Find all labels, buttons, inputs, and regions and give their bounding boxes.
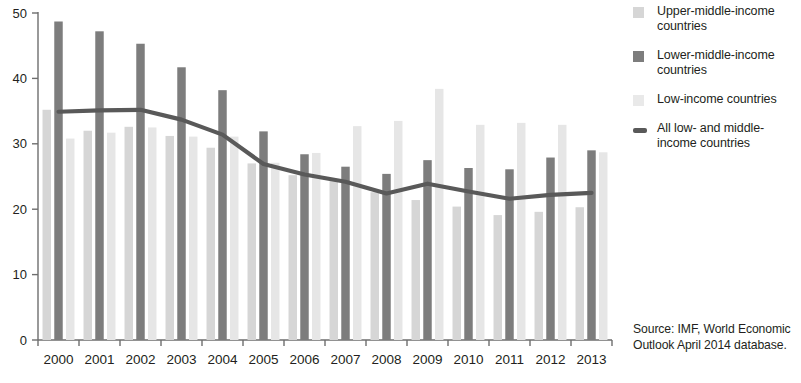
bar-lower-middle-income-countries-2003 (177, 67, 185, 340)
bar-lower-middle-income-countries-2008 (382, 174, 390, 340)
y-tick-label: 40 (13, 71, 27, 86)
legend-swatch-icon-lower-middle-income (633, 51, 644, 62)
source-note: Source: IMF, World Economic Outlook Apri… (633, 322, 801, 353)
x-tick-label: 2002 (125, 352, 155, 367)
x-tick-label: 2005 (248, 352, 278, 367)
bar-upper-middle-income-countries-2008 (371, 192, 379, 340)
bar-low-income-countries-2010 (476, 125, 484, 340)
y-tick-label: 10 (13, 267, 27, 282)
x-tick-label: 2008 (371, 352, 401, 367)
bar-low-income-countries-2000 (66, 139, 74, 340)
bar-low-income-countries-2009 (435, 89, 443, 340)
bar-upper-middle-income-countries-2001 (84, 131, 92, 340)
x-tick-label: 2009 (412, 352, 442, 367)
bar-lower-middle-income-countries-2007 (341, 167, 349, 340)
legend-item-lower-middle-income: Lower-middle-income countries (633, 48, 801, 78)
bar-upper-middle-income-countries-2010 (453, 207, 461, 340)
bar-low-income-countries-2007 (353, 126, 361, 340)
bar-upper-middle-income-countries-2003 (166, 136, 174, 340)
bar-low-income-countries-2013 (599, 152, 607, 340)
chart-legend: Upper-middle-income countries Lower-midd… (633, 4, 801, 165)
bar-upper-middle-income-countries-2013 (576, 207, 584, 340)
y-tick-label: 0 (20, 333, 27, 348)
legend-label-upper-middle-income: Upper-middle-income countries (657, 4, 801, 34)
y-tick-label: 20 (13, 202, 27, 217)
bar-lower-middle-income-countries-2009 (423, 160, 431, 340)
bar-upper-middle-income-countries-2006 (289, 175, 297, 340)
bar-low-income-countries-2008 (394, 121, 402, 340)
x-tick-label: 2001 (84, 352, 114, 367)
legend-line-icon-all-low-and-middle-income (633, 128, 647, 133)
legend-item-upper-middle-income: Upper-middle-income countries (633, 4, 801, 34)
legend-item-low-income: Low-income countries (633, 92, 801, 107)
legend-label-low-income: Low-income countries (657, 92, 777, 107)
x-tick-label: 2011 (495, 352, 524, 367)
legend-item-all-low-and-middle-income: All low- and middle-income countries (633, 121, 801, 151)
bar-low-income-countries-2006 (312, 153, 320, 340)
bar-low-income-countries-2002 (148, 127, 156, 340)
bar-low-income-countries-2004 (230, 137, 238, 340)
chart-page: 0102030405020002001200220032004200520062… (0, 0, 801, 383)
x-tick-label: 2012 (535, 352, 565, 367)
y-tick-label: 50 (13, 6, 27, 21)
x-tick-label: 2000 (43, 352, 73, 367)
bar-upper-middle-income-countries-2007 (330, 181, 338, 340)
bar-upper-middle-income-countries-2011 (494, 215, 502, 340)
bar-lower-middle-income-countries-2002 (136, 44, 144, 340)
bar-upper-middle-income-countries-2002 (125, 127, 133, 340)
y-tick-label: 30 (13, 136, 27, 151)
source-note-line-2: Outlook April 2014 database. (633, 338, 801, 354)
x-tick-label: 2013 (576, 352, 606, 367)
bar-upper-middle-income-countries-2009 (412, 200, 420, 340)
legend-swatch-icon-upper-middle-income (633, 7, 644, 18)
bar-low-income-countries-2003 (189, 137, 197, 340)
bar-low-income-countries-2005 (271, 163, 279, 340)
x-tick-label: 2004 (207, 352, 238, 367)
bar-upper-middle-income-countries-2000 (43, 110, 51, 340)
legend-swatch-icon-low-income (633, 95, 644, 106)
bar-lower-middle-income-countries-2006 (300, 154, 308, 340)
chart-svg: 0102030405020002001200220032004200520062… (0, 0, 620, 383)
bar-lower-middle-income-countries-2013 (587, 150, 595, 340)
bar-lower-middle-income-countries-2000 (54, 22, 62, 341)
x-tick-label: 2006 (289, 352, 319, 367)
legend-label-all-low-and-middle-income: All low- and middle-income countries (657, 121, 801, 151)
bar-low-income-countries-2011 (517, 123, 525, 340)
bar-lower-middle-income-countries-2011 (505, 169, 513, 340)
legend-label-lower-middle-income: Lower-middle-income countries (657, 48, 801, 78)
bar-upper-middle-income-countries-2005 (248, 163, 256, 340)
x-tick-label: 2010 (453, 352, 483, 367)
bar-lower-middle-income-countries-2004 (218, 90, 226, 340)
bar-low-income-countries-2001 (107, 133, 115, 340)
bar-lower-middle-income-countries-2001 (95, 31, 103, 340)
bar-lower-middle-income-countries-2012 (546, 158, 554, 340)
source-note-line-1: Source: IMF, World Economic (633, 322, 801, 338)
chart-plot-area: 0102030405020002001200220032004200520062… (0, 0, 620, 383)
bar-upper-middle-income-countries-2012 (535, 212, 543, 340)
x-tick-label: 2007 (330, 352, 360, 367)
x-tick-label: 2003 (166, 352, 196, 367)
bar-upper-middle-income-countries-2004 (207, 148, 215, 340)
bar-low-income-countries-2012 (558, 125, 566, 340)
